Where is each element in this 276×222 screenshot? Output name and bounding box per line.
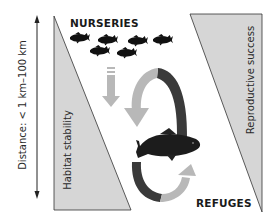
distance-axis [35,15,40,199]
down-arrow-icon [102,67,120,107]
habitat-stability-label: Habitat stability [62,110,73,190]
fish-school [70,32,173,59]
fish-icon [90,45,110,57]
nurseries-heading: NURSERIES [70,17,139,29]
fish-icon [128,35,148,47]
fish-icon [70,32,90,44]
fish-icon [98,34,118,46]
arrow-down-icon [35,191,40,199]
carp-icon [136,128,200,161]
upper-cycle-arrow-icon [124,68,187,140]
fish-icon [117,47,137,59]
distance-axis-label: Distance: < 1 km–100 km [17,40,28,170]
refuges-heading: REFUGES [196,197,252,209]
lower-cycle-arrow-icon [132,162,196,202]
fish-habitat-diagram: Distance: < 1 km–100 km Habitat stabilit… [0,0,276,222]
reproductive-success-label: Reproductive success [245,26,256,134]
fish-icon [153,34,173,46]
arrow-up-icon [35,15,40,23]
